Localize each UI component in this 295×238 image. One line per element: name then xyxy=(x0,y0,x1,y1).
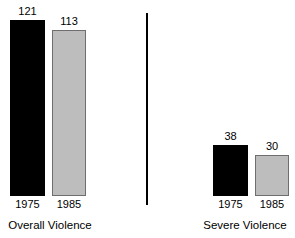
bar-overall-1975 xyxy=(10,20,45,196)
bar-severe-1975 xyxy=(213,145,248,196)
tick-label-severe-1985: 1985 xyxy=(255,198,289,210)
bar-value-label-overall-1975: 121 xyxy=(10,5,45,17)
group-caption-overall-violence: Overall Violence xyxy=(0,219,100,232)
bar-value-label-severe-1975: 38 xyxy=(213,130,248,142)
tick-label-severe-1975: 1975 xyxy=(213,198,248,210)
bar-severe-1985 xyxy=(255,155,289,196)
tick-label-overall-1975: 1975 xyxy=(10,198,45,210)
group-caption-severe-violence: Severe Violence xyxy=(195,219,295,232)
bar-chart: 121 113 1975 1985 Overall Violence 38 30… xyxy=(0,0,295,238)
group-divider-line xyxy=(146,13,148,205)
tick-label-overall-1985: 1985 xyxy=(52,198,86,210)
bar-overall-1985 xyxy=(52,30,86,196)
bar-value-label-severe-1985: 30 xyxy=(255,140,289,152)
bar-value-label-overall-1985: 113 xyxy=(52,15,86,27)
